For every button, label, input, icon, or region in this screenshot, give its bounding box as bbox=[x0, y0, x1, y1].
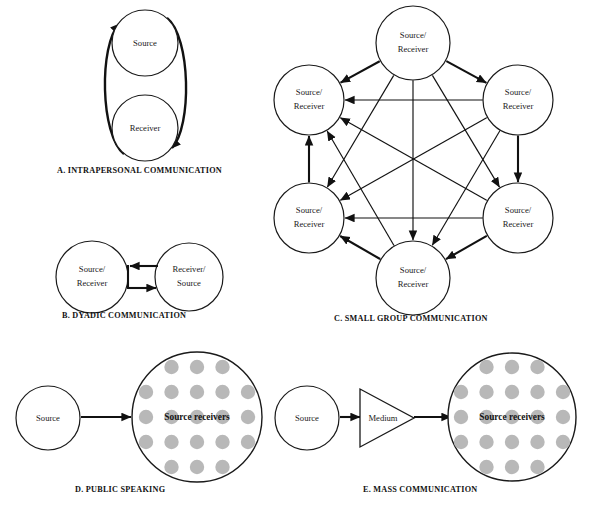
receiver-dot bbox=[479, 460, 493, 474]
receiver-dot bbox=[164, 435, 178, 449]
node-receiver-source-label-line1: Receiver/ bbox=[173, 264, 207, 274]
group-edge-0-5 bbox=[341, 61, 380, 82]
receiver-dot bbox=[454, 385, 468, 399]
receiver-dot bbox=[479, 435, 493, 449]
panel-a-caption: A. INTRAPERSONAL COMMUNICATION bbox=[57, 166, 222, 175]
panel-d-caption: D. PUBLIC SPEAKING bbox=[75, 485, 166, 494]
receiver-dot bbox=[139, 410, 153, 424]
panel-e-caption: E. MASS COMMUNICATION bbox=[363, 485, 478, 494]
node-source-label: Source bbox=[295, 413, 319, 423]
group-edge-0-1 bbox=[446, 61, 486, 83]
receiver-dot bbox=[505, 460, 519, 474]
node-upper-right-label-line1: Source/ bbox=[505, 87, 532, 97]
node-receiver-source-label-line2: Source bbox=[177, 278, 201, 288]
node-upper-left-label-line1: Source/ bbox=[296, 87, 323, 97]
receiver-dot bbox=[505, 435, 519, 449]
receiver-dot bbox=[215, 360, 229, 374]
panel-b-caption: B. DYADIC COMMUNICATION bbox=[62, 311, 186, 320]
node-top-label-line1: Source/ bbox=[400, 30, 427, 40]
receiver-dot bbox=[190, 460, 204, 474]
node-source-label: Source bbox=[133, 38, 157, 48]
group-edge-3-4 bbox=[340, 236, 380, 259]
node-upper-right-label-line2: Receiver bbox=[503, 101, 534, 111]
receiver-dot bbox=[164, 460, 178, 474]
receiver-dot bbox=[556, 435, 570, 449]
node-source-receiver-label-line1: Source/ bbox=[79, 264, 106, 274]
receiver-dot bbox=[139, 385, 153, 399]
audience-label: Source receivers bbox=[479, 412, 545, 422]
node-source-label: Source bbox=[36, 413, 60, 423]
receiver-dot bbox=[241, 410, 255, 424]
receiver-dot bbox=[530, 460, 544, 474]
receiver-dot bbox=[215, 460, 229, 474]
receiver-dot bbox=[215, 435, 229, 449]
medium-label: Medium bbox=[368, 413, 397, 423]
receiver-dot bbox=[190, 385, 204, 399]
node-bottom-label-line1: Source/ bbox=[400, 265, 427, 275]
receiver-dot bbox=[530, 385, 544, 399]
receiver-dot bbox=[164, 385, 178, 399]
panel-e-mass-communication: Source Medium Source receiversE. MASS CO… bbox=[275, 353, 576, 494]
figure-canvas: Source Receiver A. INTRAPERSONAL COMMUNI… bbox=[0, 0, 596, 506]
group-edge-2-3 bbox=[446, 236, 487, 259]
receiver-dot bbox=[190, 360, 204, 374]
panel-d-public-speaking: Source Source receiversD. PUBLIC SPEAKIN… bbox=[16, 352, 262, 494]
node-lower-right-label-line2: Receiver bbox=[503, 219, 534, 229]
node-lower-left-label-line1: Source/ bbox=[296, 205, 323, 215]
receiver-dot bbox=[530, 360, 544, 374]
receiver-dot bbox=[479, 385, 493, 399]
receiver-dot bbox=[454, 435, 468, 449]
receiver-dot bbox=[190, 435, 204, 449]
node-upper-left-label-line2: Receiver bbox=[294, 101, 325, 111]
receiver-dot bbox=[454, 410, 468, 424]
receiver-dot bbox=[479, 360, 493, 374]
receiver-dot bbox=[139, 435, 153, 449]
receiver-dot bbox=[241, 385, 255, 399]
receiver-dot bbox=[241, 435, 255, 449]
receiver-dot bbox=[164, 360, 178, 374]
receiver-dot bbox=[505, 360, 519, 374]
panel-a-intrapersonal: Source Receiver A. INTRAPERSONAL COMMUNI… bbox=[57, 10, 222, 175]
panel-b-dyadic: Source/ Receiver Receiver/ Source B. DYA… bbox=[56, 241, 223, 320]
node-top-label-line2: Receiver bbox=[398, 44, 429, 54]
panel-c-small-group: Source/ReceiverSource/ReceiverSource/Rec… bbox=[274, 6, 553, 323]
node-receiver-label: Receiver bbox=[130, 123, 161, 133]
node-lower-right-label-line1: Source/ bbox=[505, 205, 532, 215]
node-bottom-label-line2: Receiver bbox=[398, 279, 429, 289]
receiver-dot bbox=[556, 385, 570, 399]
communication-models-figure: Source Receiver A. INTRAPERSONAL COMMUNI… bbox=[0, 0, 596, 506]
node-source-receiver-label-line2: Receiver bbox=[77, 278, 108, 288]
receiver-dot bbox=[530, 435, 544, 449]
receiver-dot bbox=[505, 385, 519, 399]
audience-label: Source receivers bbox=[164, 412, 230, 422]
panel-c-caption: C. SMALL GROUP COMMUNICATION bbox=[334, 314, 488, 323]
receiver-dot bbox=[215, 385, 229, 399]
receiver-dot bbox=[556, 410, 570, 424]
node-lower-left-label-line2: Receiver bbox=[294, 219, 325, 229]
